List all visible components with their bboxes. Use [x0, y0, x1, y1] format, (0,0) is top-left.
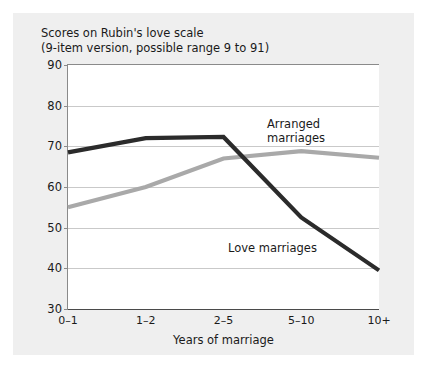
x-tick-label-3: 5–10 — [288, 314, 315, 327]
series-line-arranged-marriages — [68, 151, 379, 207]
y-tick-label-60: 60 — [47, 180, 62, 194]
series-layer — [68, 65, 379, 309]
y-tick-mark-30 — [64, 309, 68, 310]
y-tick-label-90: 90 — [47, 58, 62, 72]
chart-title-line-2: (9-item version, possible range 9 to 91) — [41, 41, 269, 56]
y-tick-label-50: 50 — [47, 221, 62, 235]
annotation-love-marriages: Love marriages — [228, 241, 317, 255]
annotation-arranged-line-2: marriages — [267, 131, 325, 145]
chart-title-line-1: Scores on Rubin's love scale — [41, 26, 269, 41]
x-tick-label-0: 0–1 — [58, 314, 78, 327]
x-axis-title: Years of marriage — [173, 333, 274, 347]
y-tick-label-80: 80 — [47, 99, 62, 113]
annotation-arranged-marriages: Arranged marriages — [267, 117, 325, 145]
y-tick-label-40: 40 — [47, 261, 62, 275]
plot-area: 30405060708090 0–11–22–55–1010+ Arranged… — [67, 64, 379, 310]
x-tick-label-1: 1–2 — [136, 314, 156, 327]
chart-figure: Scores on Rubin's love scale (9-item ver… — [13, 13, 414, 355]
x-tick-label-4: 10+ — [367, 314, 390, 327]
annotation-arranged-line-1: Arranged — [267, 117, 325, 131]
y-tick-label-70: 70 — [47, 139, 62, 153]
x-tick-label-2: 2–5 — [214, 314, 234, 327]
chart-title: Scores on Rubin's love scale (9-item ver… — [41, 26, 269, 55]
